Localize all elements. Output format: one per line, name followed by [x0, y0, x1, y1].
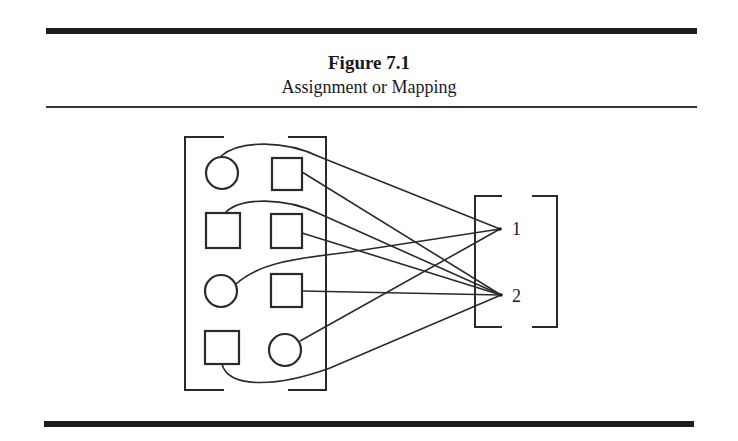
mapping-lines — [221, 144, 501, 382]
line-r3c2-to-2 — [302, 291, 501, 295]
circle-r3c1 — [205, 275, 237, 307]
target-set-bracket — [475, 196, 557, 327]
target-elements: 1 2 — [498, 219, 521, 306]
square-r4c1 — [205, 331, 239, 364]
target-label-1: 1 — [512, 219, 521, 239]
square-r2c1 — [206, 213, 240, 248]
bottom-thick-rule — [44, 421, 694, 427]
line-r1c1-to-1 — [221, 144, 500, 229]
line-r2c1-to-2 — [225, 201, 501, 295]
line-r2c2-to-2 — [302, 233, 501, 295]
line-r4c1-to-2 — [222, 295, 501, 383]
square-r3c2 — [271, 274, 302, 307]
target-label-2: 2 — [512, 286, 521, 306]
circle-r1c1 — [206, 157, 238, 189]
circle-r4c2 — [269, 334, 301, 366]
mapping-diagram: 1 2 — [0, 0, 738, 441]
square-r1c2 — [272, 158, 302, 190]
target-point-2 — [499, 293, 503, 297]
square-r2c2 — [271, 214, 302, 248]
target-point-1 — [498, 227, 502, 231]
